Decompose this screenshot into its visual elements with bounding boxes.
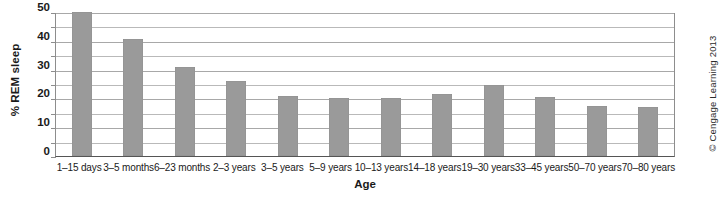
x-axis-title: Age: [55, 178, 675, 190]
x-axis-tick-label: 50–70 years: [568, 161, 621, 177]
bar-slot: [520, 13, 572, 156]
y-axis-tick-mark: [51, 157, 56, 158]
x-axis-tick-label: 2–3 years: [210, 161, 258, 177]
x-axis-tick-label: 10–13 years: [355, 161, 408, 177]
x-axis-tick-label: 1–15 days: [55, 161, 103, 177]
bar-slot: [159, 13, 211, 156]
bar-slot: [314, 13, 366, 156]
y-axis-tick-label: 40: [37, 30, 50, 42]
x-axis-tick-labels: 1–15 days3–5 months6–23 months2–3 years3…: [55, 161, 675, 177]
copyright-credit-text: © Cengage Learning 2013: [707, 35, 718, 151]
bar-slot: [468, 13, 520, 156]
x-axis-tick-label: 3–5 years: [258, 161, 306, 177]
y-axis-tick-label: 0: [44, 145, 50, 157]
bar: [484, 85, 504, 156]
bar: [72, 12, 92, 156]
x-axis-tick-label: 70–80 years: [622, 161, 675, 177]
y-axis-tick-label: 30: [37, 59, 50, 71]
bar: [587, 106, 607, 156]
bar: [535, 97, 555, 156]
bar-slot: [623, 13, 675, 156]
bar-series: [56, 13, 674, 156]
x-axis-tick-label: 33–45 years: [515, 161, 568, 177]
rem-sleep-bar-chart: % REM sleep 01020304050 1–15 days3–5 mon…: [0, 0, 721, 198]
bar: [329, 98, 349, 156]
bar-slot: [262, 13, 314, 156]
y-axis-tick-label: 20: [37, 87, 50, 99]
bar: [175, 67, 195, 156]
x-axis-tick-label: 6–23 months: [154, 161, 210, 177]
bar: [432, 94, 452, 156]
bar: [638, 107, 658, 156]
bar-slot: [211, 13, 263, 156]
y-axis-tick-label: 10: [37, 116, 50, 128]
bar: [278, 96, 298, 156]
y-axis-tick-label: 50: [37, 1, 50, 13]
bar: [123, 39, 143, 156]
x-axis-tick-label: 5–9 years: [307, 161, 355, 177]
x-axis-tick-label: 19–30 years: [461, 161, 514, 177]
plot-area: [55, 13, 675, 157]
bar-slot: [571, 13, 623, 156]
bar-slot: [365, 13, 417, 156]
y-axis-tick-labels: 01020304050: [24, 7, 50, 157]
bar-slot: [108, 13, 160, 156]
y-axis-title-text: % REM sleep: [9, 44, 21, 117]
y-axis-title: % REM sleep: [6, 0, 24, 160]
bar-slot: [56, 13, 108, 156]
x-axis-tick-label: 3–5 months: [103, 161, 154, 177]
copyright-credit: © Cengage Learning 2013: [704, 0, 720, 186]
bar-slot: [417, 13, 469, 156]
bar: [226, 81, 246, 156]
bar: [381, 98, 401, 156]
x-axis-tick-label: 14–18 years: [408, 161, 461, 177]
